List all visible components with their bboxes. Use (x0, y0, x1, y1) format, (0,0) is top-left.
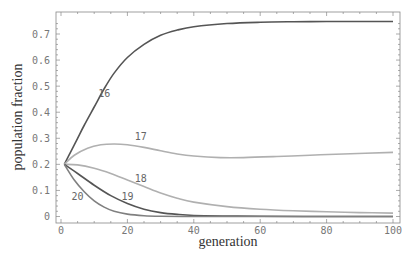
curve-labels: 1617181920 (72, 88, 147, 203)
x-tick-label: 0 (58, 225, 64, 236)
curve-17 (64, 144, 393, 164)
x-tick-label: 80 (321, 225, 333, 236)
data-curves (64, 21, 393, 216)
y-tick-label: 0.1 (32, 185, 50, 196)
curve-label-16: 16 (98, 88, 110, 99)
y-tick-label: 0.7 (32, 29, 50, 40)
curve-16 (64, 21, 393, 164)
y-tick-label: 0.6 (32, 55, 50, 66)
plot-border (56, 12, 400, 223)
y-tick-label: 0.2 (32, 159, 50, 170)
curve-18 (64, 164, 393, 213)
curve-label-17: 17 (135, 131, 147, 142)
y-tick-label: 0.3 (32, 133, 50, 144)
y-tick-label: 0.4 (32, 107, 50, 118)
plot-frame (56, 12, 400, 223)
curve-label-18: 18 (135, 173, 147, 184)
curve-label-20: 20 (72, 191, 84, 202)
x-tick-label: 100 (384, 225, 402, 236)
y-tick-label: 0.5 (32, 81, 50, 92)
curve-label-19: 19 (121, 191, 133, 202)
x-axis-title: generation (198, 234, 257, 249)
y-axis-title: population fraction (10, 64, 25, 171)
y-tick-label: 0 (44, 211, 50, 222)
line-chart: 00.10.20.30.40.50.60.7 020406080100 1617… (0, 0, 419, 260)
curve-19 (64, 164, 393, 216)
y-tick-labels: 00.10.20.30.40.50.60.7 (32, 29, 50, 223)
axis-ticks (56, 12, 400, 223)
curve-20 (64, 164, 393, 216)
x-tick-label: 20 (121, 225, 133, 236)
